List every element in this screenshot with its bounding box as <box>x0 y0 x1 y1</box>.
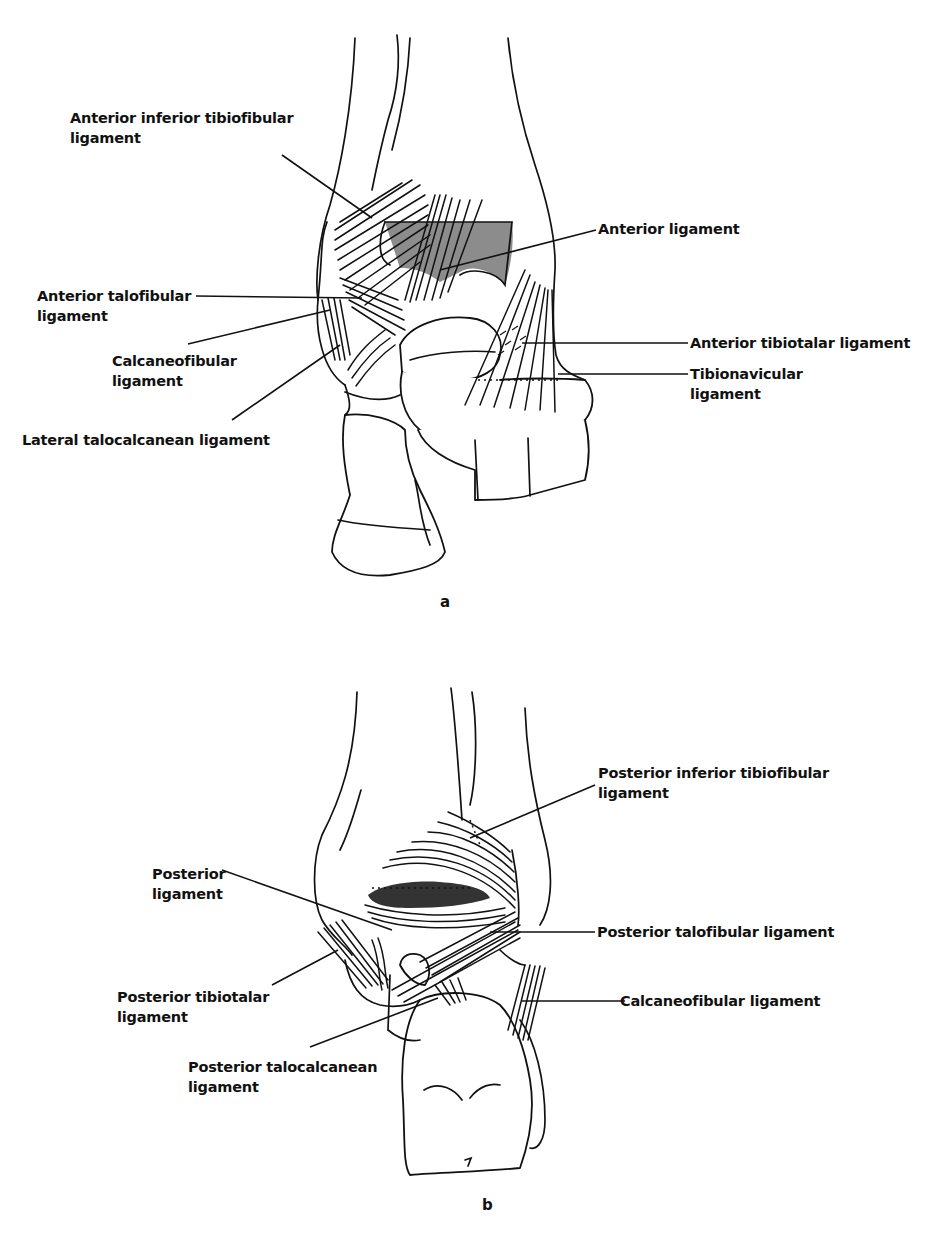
label-calcaneofibular: Calcaneofibular ligament <box>112 351 237 391</box>
lat-talocalcanean-ligament-fibers <box>348 330 395 386</box>
label-line: Calcaneofibular <box>112 353 237 369</box>
label-ant-tibiotalar: Anterior tibiotalar ligament <box>690 333 910 353</box>
label-line: Anterior talofibular <box>37 288 191 304</box>
label-line: Posterior talocalcanean <box>188 1059 377 1075</box>
ligament-diagram <box>0 0 929 1248</box>
posterior-ligament-fibers <box>365 905 505 928</box>
label-posterior: Posterior ligament <box>152 864 225 904</box>
label-line: Posterior talofibular ligament <box>597 924 834 940</box>
label-post-inf-tibiofibular: Posterior inferior tibiofibular ligament <box>598 763 829 803</box>
caption-b: b <box>482 1196 493 1214</box>
label-ant-inf-tibiofibular: Anterior inferior tibiofibular ligament <box>70 108 293 148</box>
talar-shading-b <box>368 882 490 908</box>
label-line: Anterior inferior tibiofibular <box>70 110 293 126</box>
label-line: ligament <box>690 386 761 402</box>
label-line: ligament <box>37 308 108 324</box>
label-ant-talofibular: Anterior talofibular ligament <box>37 286 191 326</box>
label-line: Anterior ligament <box>598 221 740 237</box>
label-lat-talocalcanean: Lateral talocalcanean ligament <box>22 430 270 450</box>
figure-a-drawing <box>317 35 593 576</box>
label-line: ligament <box>188 1079 259 1095</box>
label-line: ligament <box>152 886 223 902</box>
label-calcaneofibular-b: Calcaneofibular ligament <box>620 991 820 1011</box>
label-line: Anterior tibiotalar ligament <box>690 335 910 351</box>
label-line: ligament <box>598 785 669 801</box>
label-tibionavicular: Tibionavicular ligament <box>690 364 803 404</box>
label-line: Posterior inferior tibiofibular <box>598 765 829 781</box>
label-post-tibiotalar: Posterior tibiotalar ligament <box>117 987 269 1027</box>
label-line: Posterior tibiotalar <box>117 989 269 1005</box>
caption-a: a <box>440 593 450 611</box>
label-line: ligament <box>112 373 183 389</box>
fibula-outline <box>317 38 355 385</box>
calcaneofibular-ligament-fibers <box>322 298 350 360</box>
label-line: ligament <box>117 1009 188 1025</box>
label-post-talocalcanean: Posterior talocalcanean ligament <box>188 1057 377 1097</box>
label-line: Calcaneofibular ligament <box>620 993 820 1009</box>
label-line: Posterior <box>152 866 225 882</box>
label-line: Lateral talocalcanean ligament <box>22 432 270 448</box>
label-anterior: Anterior ligament <box>598 219 740 239</box>
label-line: ligament <box>70 130 141 146</box>
label-post-talofibular: Posterior talofibular ligament <box>597 922 834 942</box>
label-line: Tibionavicular <box>690 366 803 382</box>
